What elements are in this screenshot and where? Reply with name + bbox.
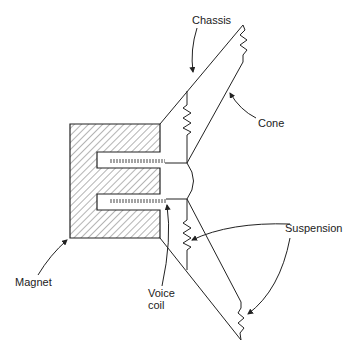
label-suspension: Suspension — [285, 222, 343, 234]
magnet-body — [70, 124, 160, 238]
suspension-arrow-lower — [248, 238, 290, 314]
label-voice-coil-line2: coil — [148, 299, 165, 311]
dust-cap — [187, 163, 194, 199]
cone-arrow — [230, 93, 256, 118]
speaker-drawing — [0, 0, 357, 355]
label-chassis: Chassis — [192, 14, 231, 26]
label-voice-coil-line1: Voice — [148, 287, 175, 299]
chassis-arrow — [192, 28, 197, 72]
cone — [187, 62, 243, 302]
label-magnet: Magnet — [15, 276, 52, 288]
speaker-diagram: Chassis Cone Suspension Magnet Voice coi… — [0, 0, 357, 355]
magnet-arrow — [38, 240, 67, 275]
label-cone: Cone — [258, 117, 284, 129]
